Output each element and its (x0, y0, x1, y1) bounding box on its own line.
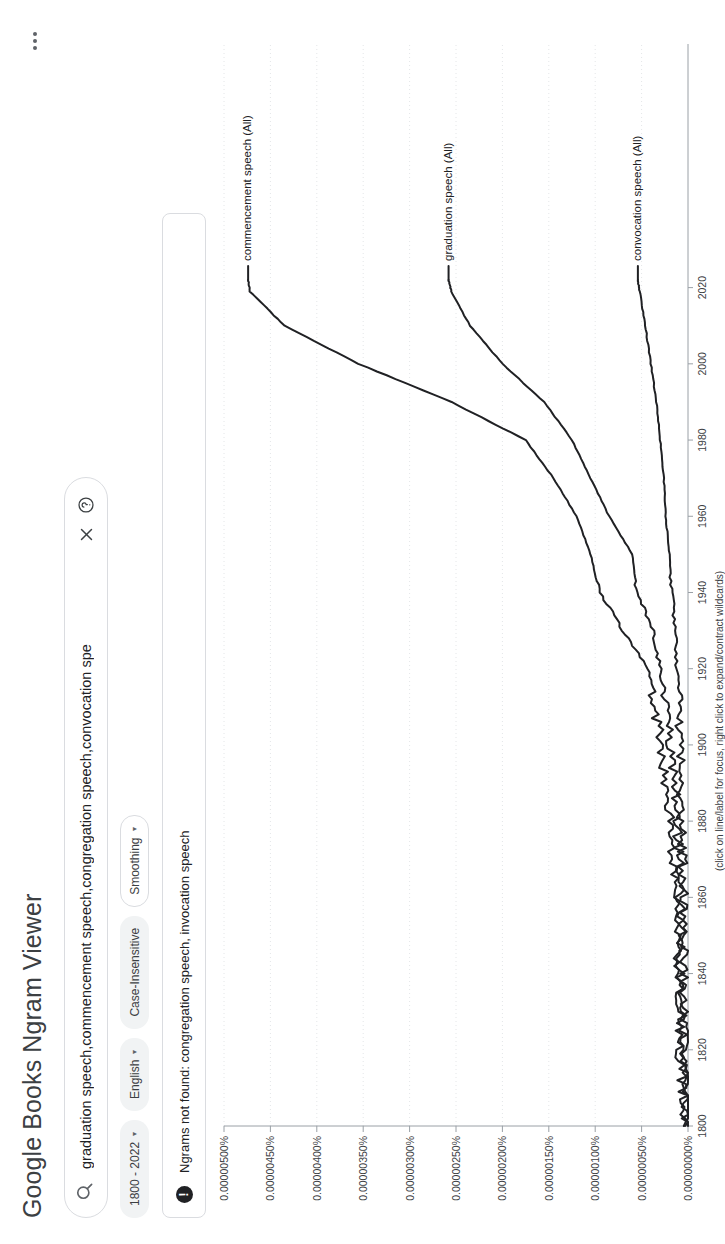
chip-date-range-label: 1800 - 2022 (128, 1142, 142, 1206)
series-label[interactable]: convocation speech (All) (631, 136, 643, 261)
y-axis-tick-label: 0.00000350% (357, 1136, 369, 1218)
y-axis-tick-label: 0.00000450% (264, 1136, 276, 1218)
x-axis-tick-label: 1820 (696, 1038, 708, 1061)
y-axis-tick-label: 0.00000150% (543, 1136, 555, 1218)
x-axis-tick-label: 1920 (696, 657, 708, 680)
x-axis-tick-label: 1840 (696, 962, 708, 985)
chip-corpus-language-label: English (128, 1060, 142, 1099)
ngrams-not-found-message: Ngrams not found: congregation speech, i… (177, 830, 192, 1173)
kebab-dot (33, 46, 37, 50)
header-bar: Google Books Ngram Viewer (16, 22, 50, 1218)
x-axis-tick-label: 1960 (696, 505, 708, 528)
x-axis-tick-label: 1940 (696, 581, 708, 604)
ngrams-not-found-banner: ! Ngrams not found: congregation speech,… (162, 213, 206, 1218)
chip-smoothing-label: Smoothing (128, 837, 142, 894)
y-axis-tick-label: 0.00000200% (496, 1136, 508, 1218)
y-axis-tick-label: 0.00000250% (450, 1136, 462, 1218)
y-axis-tick-label: 0.00000050% (636, 1136, 648, 1218)
search-input[interactable]: graduation speech,commencement speech,co… (78, 552, 94, 1169)
kebab-dot (33, 32, 37, 36)
y-axis-tick-label: 0.00000400% (311, 1136, 323, 1218)
close-icon[interactable] (73, 522, 99, 548)
y-axis-tick-label: 0.00000300% (404, 1136, 416, 1218)
chevron-down-icon: ▾ (131, 1050, 139, 1054)
x-axis-tick-label: 1860 (696, 886, 708, 909)
x-axis-tick-label: 1880 (696, 809, 708, 832)
series-label[interactable]: graduation speech (All) (442, 143, 454, 261)
y-axis-tick-label: 0.00000000% (682, 1136, 694, 1218)
x-axis-tick-label: 2020 (696, 276, 708, 299)
chip-case-insensitive[interactable]: Case-Insensitive (120, 916, 149, 1029)
search-icon (75, 1182, 98, 1201)
x-axis-tick-label: 1980 (696, 428, 708, 451)
chevron-down-icon: ▾ (131, 1132, 139, 1136)
kebab-menu-icon[interactable] (20, 26, 50, 56)
page-title: Google Books Ngram Viewer (16, 894, 47, 1218)
help-circle-icon[interactable] (73, 492, 99, 518)
series-label[interactable]: commencement speech (All) (241, 115, 253, 261)
chart-footnote: (click on line/label for focus, right cl… (714, 571, 725, 871)
search-box[interactable]: graduation speech,commencement speech,co… (64, 477, 108, 1218)
y-axis-tick-label: 0.00000100% (589, 1136, 601, 1218)
filter-chip-row: 1800 - 2022 ▾ English ▾ Case-Insensitive… (120, 22, 149, 1218)
ngram-chart[interactable]: 0.00000000%0.00000050%0.00000100%0.00000… (214, 28, 714, 1218)
search-row: graduation speech,commencement speech,co… (64, 22, 108, 1218)
chip-smoothing[interactable]: Smoothing ▾ (120, 815, 149, 906)
x-axis-tick-label: 1900 (696, 733, 708, 756)
chip-case-insensitive-label: Case-Insensitive (128, 928, 142, 1017)
chip-date-range[interactable]: 1800 - 2022 ▾ (120, 1120, 149, 1218)
warning-icon: ! (176, 1186, 193, 1203)
chevron-down-icon: ▾ (131, 827, 139, 831)
chip-corpus-language[interactable]: English ▾ (120, 1038, 149, 1111)
x-axis-tick-label: 2000 (696, 352, 708, 375)
kebab-dot (33, 39, 37, 43)
y-axis-tick-label: 0.00000500% (218, 1136, 230, 1218)
x-axis-tick-label: 1800 (696, 1114, 708, 1137)
